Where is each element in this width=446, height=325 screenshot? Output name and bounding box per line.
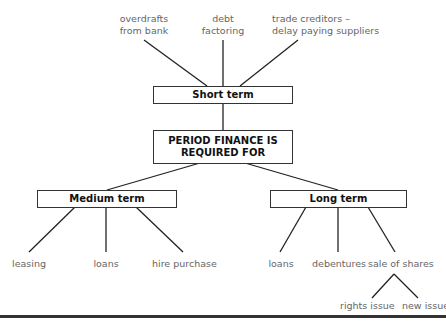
label-loans-medium: loans: [86, 258, 126, 270]
label-loans-long: loans: [265, 258, 297, 270]
root-box: PERIOD FINANCE IS REQUIRED FOR: [153, 130, 293, 164]
label-rights-issue: rights issue: [340, 300, 390, 312]
bottom-rule: [0, 315, 446, 318]
label-sale-of-shares: sale of shares: [368, 258, 432, 270]
label-line: overdrafts: [112, 13, 176, 25]
label-new-issue: new issue: [402, 300, 446, 312]
root-label-line2: REQUIRED FOR: [181, 147, 265, 159]
medium-term-box: Medium term: [37, 190, 177, 208]
short-term-box: Short term: [153, 86, 293, 104]
label-trade-creditors: trade creditors – delay paying suppliers: [272, 13, 379, 37]
root-label-line1: PERIOD FINANCE IS: [168, 135, 277, 147]
medium-term-label: Medium term: [69, 193, 144, 205]
label-debentures: debentures: [312, 258, 364, 270]
label-line: from bank: [112, 25, 176, 37]
long-term-box: Long term: [270, 190, 407, 208]
label-leasing: leasing: [0, 258, 58, 270]
short-term-label: Short term: [192, 89, 253, 101]
long-term-label: Long term: [310, 193, 368, 205]
label-line: trade creditors –: [272, 13, 379, 25]
label-line: delay paying suppliers: [272, 25, 379, 37]
label-line: factoring: [198, 25, 248, 37]
label-line: debt: [198, 13, 248, 25]
label-overdrafts-from-bank: overdrafts from bank: [112, 13, 176, 37]
label-debt-factoring: debt factoring: [198, 13, 248, 37]
label-hire-purchase: hire purchase: [152, 258, 216, 270]
